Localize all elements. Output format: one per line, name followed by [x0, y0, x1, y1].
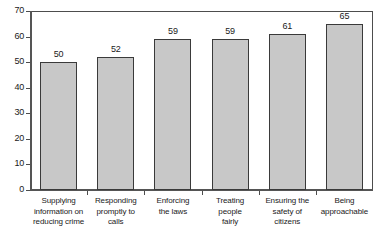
y-axis-tick [26, 62, 30, 63]
category-label: Responding promptly to calls [87, 196, 144, 228]
bar-value-label: 65 [324, 11, 364, 21]
plot-area [30, 11, 373, 190]
category-label: Treating people fairly [202, 196, 259, 228]
bar-value-label: 59 [153, 26, 193, 36]
bar [269, 34, 306, 190]
bar-value-label: 50 [39, 49, 79, 59]
x-axis-tick [259, 191, 260, 195]
y-axis-line [30, 11, 32, 191]
y-axis-tick-label: 0 [0, 184, 24, 195]
bar [212, 39, 249, 190]
y-axis-tick-label: 60 [0, 31, 24, 42]
y-axis-tick-label: 10 [0, 158, 24, 169]
bar [97, 57, 134, 190]
y-axis-tick [26, 139, 30, 140]
y-axis-tick [26, 190, 30, 191]
bar-value-label: 61 [267, 21, 307, 31]
bar-chart: 010203040506070 505259596165 Supplying i… [0, 0, 385, 231]
bar [40, 62, 77, 190]
bar [154, 39, 191, 190]
y-axis-tick [26, 113, 30, 114]
y-axis-tick [26, 11, 30, 12]
x-axis-tick [144, 191, 145, 195]
bar-value-label: 52 [96, 44, 136, 54]
category-label: Ensuring the safety of citizens [259, 196, 316, 228]
x-axis-tick [87, 191, 88, 195]
y-axis-tick-label: 70 [0, 5, 24, 16]
y-axis-tick [26, 37, 30, 38]
y-axis-tick [26, 88, 30, 89]
y-axis-tick [26, 164, 30, 165]
category-label: Supplying information on reducing crime [30, 196, 87, 228]
y-axis-tick-label: 20 [0, 133, 24, 144]
category-label: Enforcing the laws [144, 196, 201, 217]
y-axis-tick-label: 40 [0, 82, 24, 93]
y-axis-tick-label: 30 [0, 107, 24, 118]
bar-value-label: 59 [210, 26, 250, 36]
x-axis-tick [202, 191, 203, 195]
category-label: Being approachable [316, 196, 373, 217]
bar [326, 24, 363, 190]
y-axis-tick-label: 50 [0, 56, 24, 67]
x-axis-tick [316, 191, 317, 195]
